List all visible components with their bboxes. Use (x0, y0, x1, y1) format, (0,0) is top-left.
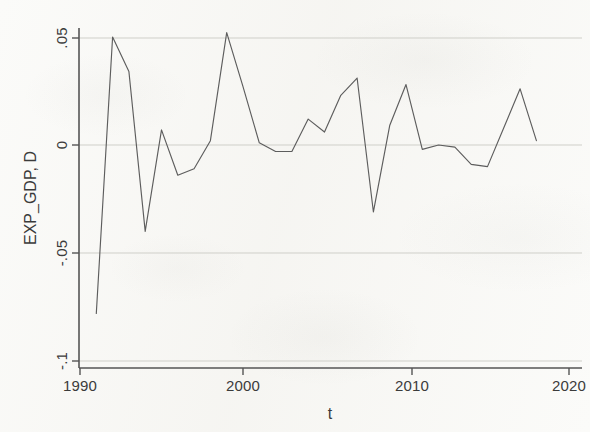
chart-svg: .05 0 -.05 -.1 EXP_GDP, D 1990 2000 2010… (0, 0, 590, 432)
line-chart: .05 0 -.05 -.1 EXP_GDP, D 1990 2000 2010… (0, 0, 590, 432)
y-tick-label-0: 0 (53, 141, 70, 150)
x-axis: 1990 2000 2010 2020 t (63, 368, 586, 422)
x-tick-label-2010: 2010 (395, 377, 429, 394)
x-axis-title: t (328, 405, 333, 422)
y-tick-label--0.05: -.05 (53, 240, 70, 267)
y-axis: .05 0 -.05 -.1 EXP_GDP, D (22, 27, 79, 370)
x-tick-label-1990: 1990 (63, 377, 97, 394)
y-tick-label-0.05: .05 (53, 27, 70, 48)
x-tick-label-2000: 2000 (226, 377, 260, 394)
y-axis-title: EXP_GDP, D (22, 151, 40, 245)
series-line-exp-gdp-d (96, 33, 536, 314)
y-tick-label--0.1: -.1 (53, 352, 70, 370)
x-tick-label-2020: 2020 (552, 377, 586, 394)
gridlines (79, 38, 582, 361)
